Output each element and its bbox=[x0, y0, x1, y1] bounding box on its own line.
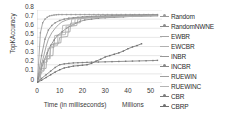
x-axis-title: Time (in milliseconds) bbox=[20, 101, 130, 108]
series-marker bbox=[114, 53, 115, 54]
series-marker bbox=[53, 14, 54, 15]
chart-legend: RandomRandomNWNEEWBREWCBRINBRINCBRRUEWIN… bbox=[160, 11, 230, 111]
series-line bbox=[38, 15, 158, 81]
legend-item-label: RUEWIN bbox=[171, 73, 196, 80]
series-marker bbox=[45, 74, 46, 75]
series-marker bbox=[86, 64, 87, 65]
series-marker bbox=[89, 13, 90, 14]
series-marker bbox=[64, 18, 65, 19]
x-axis-tick-label: 40 bbox=[124, 87, 131, 94]
series-marker bbox=[145, 60, 146, 61]
series-marker bbox=[40, 32, 41, 33]
series-line bbox=[38, 15, 158, 80]
y-axis-tick-label: 0.2 bbox=[25, 57, 34, 64]
legend-item-cbr[interactable]: CBR bbox=[160, 91, 230, 101]
series-marker bbox=[95, 60, 96, 61]
legend-item-label: CBRP bbox=[171, 103, 188, 110]
series-marker bbox=[68, 66, 69, 67]
series-line bbox=[38, 14, 158, 79]
series-marker bbox=[136, 44, 137, 45]
y-axis-tick-label: 0.5 bbox=[25, 30, 34, 37]
series-marker bbox=[41, 79, 42, 80]
series-marker bbox=[100, 58, 101, 59]
series-marker bbox=[127, 48, 128, 49]
legend-swatch-icon bbox=[160, 22, 169, 30]
series-marker bbox=[157, 59, 158, 60]
series-marker bbox=[93, 13, 94, 14]
series-marker bbox=[51, 24, 52, 25]
legend-swatch-icon bbox=[160, 72, 169, 80]
x-axis-tick-label: 0 bbox=[35, 87, 39, 94]
series-marker bbox=[59, 69, 60, 70]
series-marker bbox=[98, 13, 99, 14]
legend-item-ewcbr[interactable]: EWCBR bbox=[160, 41, 230, 51]
series-marker bbox=[107, 13, 108, 14]
legend-item-cbrp[interactable]: CBRP bbox=[160, 101, 230, 111]
legend-item-label: RandomNWNE bbox=[171, 23, 214, 30]
series-marker bbox=[59, 64, 60, 65]
series-line bbox=[38, 60, 158, 82]
x-axis-tick-label: 20 bbox=[79, 87, 86, 94]
y-axis-tick-label: 0.7 bbox=[25, 12, 34, 19]
series-line bbox=[38, 15, 158, 80]
y-axis-tick-label: 0.6 bbox=[25, 21, 34, 28]
series-marker bbox=[73, 65, 74, 66]
series-marker bbox=[102, 13, 103, 14]
series-marker bbox=[82, 61, 83, 62]
series-marker bbox=[132, 60, 133, 61]
y-axis-tick-label: 0.4 bbox=[25, 39, 34, 46]
series-marker bbox=[116, 13, 117, 14]
series-marker bbox=[111, 60, 112, 61]
series-marker bbox=[104, 61, 105, 62]
y-axis-tick-label: 0 bbox=[30, 76, 34, 83]
series-marker bbox=[61, 13, 62, 14]
legend-item-random[interactable]: Random bbox=[160, 11, 230, 21]
series-marker bbox=[104, 56, 105, 57]
series-marker bbox=[132, 46, 133, 47]
series-marker bbox=[91, 62, 92, 63]
series-marker bbox=[42, 22, 43, 23]
legend-swatch-icon bbox=[160, 32, 169, 40]
legend-item-label: CBR bbox=[171, 93, 184, 100]
series-marker bbox=[47, 16, 48, 17]
series-marker bbox=[44, 18, 45, 19]
series-marker bbox=[77, 64, 78, 65]
legend-item-inbr[interactable]: INBR bbox=[160, 51, 230, 61]
legend-swatch-icon bbox=[160, 82, 169, 90]
series-marker bbox=[91, 18, 92, 19]
legend-swatch-icon bbox=[160, 102, 169, 110]
x-axis-tick-label: 10 bbox=[56, 87, 63, 94]
series-marker bbox=[109, 54, 110, 55]
legend-swatch-icon bbox=[160, 42, 169, 50]
series-marker bbox=[98, 61, 99, 62]
legend-item-label: INBR bbox=[171, 53, 186, 60]
series-marker bbox=[139, 60, 140, 61]
legend-item-randomnwne[interactable]: RandomNWNE bbox=[160, 21, 230, 31]
series-marker bbox=[82, 64, 83, 65]
legend-item-ruewinc[interactable]: RUEWINC bbox=[160, 81, 230, 91]
x-axis-tick-label: 30 bbox=[102, 87, 109, 94]
series-marker bbox=[45, 76, 46, 77]
series-marker bbox=[41, 77, 42, 78]
series-marker bbox=[58, 13, 59, 14]
y-axis-tick-label: 0.3 bbox=[25, 48, 34, 55]
series-marker bbox=[70, 13, 71, 14]
series-marker bbox=[54, 22, 55, 23]
legend-item-ruewin[interactable]: RUEWIN bbox=[160, 71, 230, 81]
series-marker bbox=[118, 60, 119, 61]
series-marker bbox=[50, 70, 51, 71]
x-axis-tick-label: 50 bbox=[147, 87, 154, 94]
series-marker bbox=[54, 71, 55, 72]
legend-item-incbr[interactable]: INCBR bbox=[160, 61, 230, 71]
series-marker bbox=[53, 39, 54, 40]
legend-item-label: RUEWINC bbox=[171, 83, 201, 90]
series-marker bbox=[68, 62, 69, 63]
y-axis-tick-labels: 00.10.20.30.40.50.60.70.8 bbox=[14, 6, 34, 86]
series-marker bbox=[118, 52, 119, 53]
series-marker bbox=[84, 19, 85, 20]
series-marker bbox=[68, 17, 69, 18]
legend-item-label: INCBR bbox=[171, 63, 190, 70]
series-marker bbox=[152, 59, 153, 60]
series-marker bbox=[84, 13, 85, 14]
legend-item-ewbr[interactable]: EWBR bbox=[160, 31, 230, 41]
